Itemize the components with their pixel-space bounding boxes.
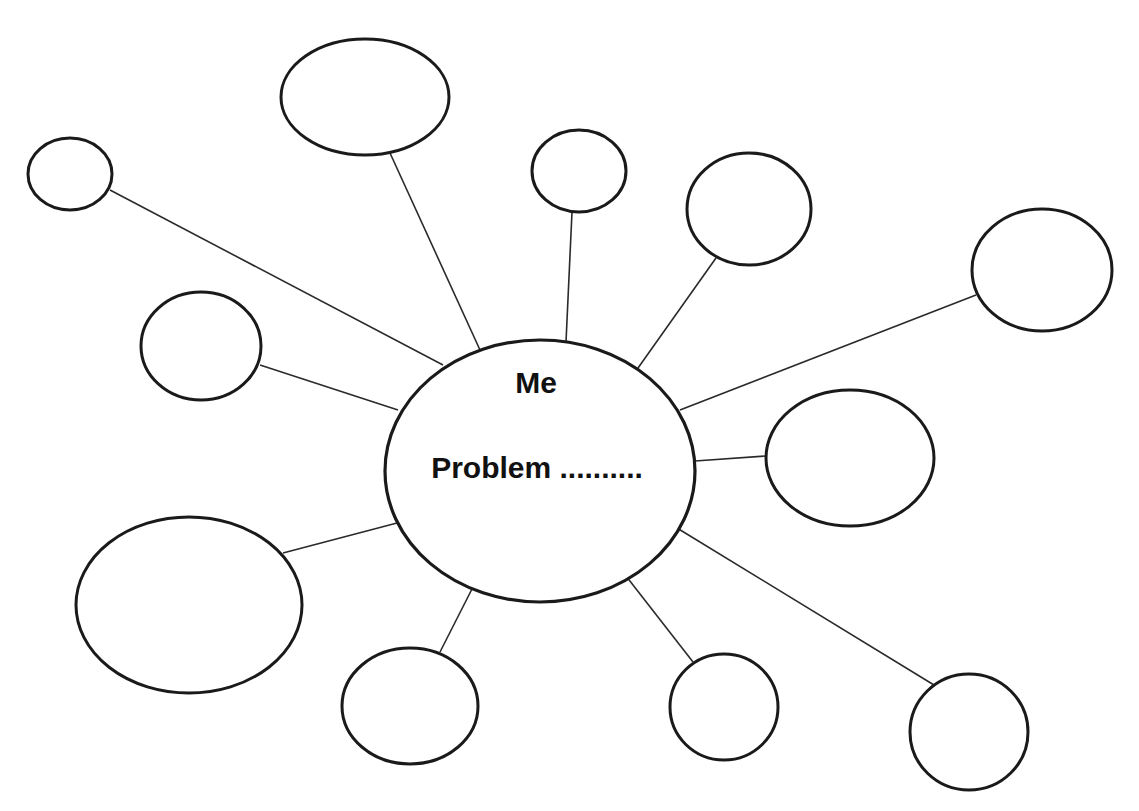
- node-bottom-left-large: [76, 517, 302, 693]
- node-top-left-small: [28, 138, 112, 210]
- connector-top-right: [638, 258, 716, 368]
- node-top-large: [281, 39, 449, 155]
- node-ellipse: [141, 292, 261, 400]
- node-ellipse: [910, 674, 1028, 790]
- connector-bottom-left-large: [283, 523, 397, 553]
- node-top-right: [687, 153, 811, 265]
- node-ellipse: [342, 648, 478, 764]
- node-ellipse: [281, 39, 449, 155]
- node-ellipse: [972, 209, 1112, 331]
- node-ellipse: [670, 654, 778, 760]
- mind-map-diagram: Me Problem ..........: [0, 0, 1139, 811]
- connector-left-middle: [260, 365, 398, 410]
- node-right-middle: [766, 390, 934, 526]
- node-ellipse: [76, 517, 302, 693]
- connector-top-large: [390, 153, 480, 350]
- node-far-right: [972, 209, 1112, 331]
- central-subtitle: Problem ..........: [431, 451, 643, 484]
- node-bottom-right: [910, 674, 1028, 790]
- connector-bottom-small: [440, 587, 473, 652]
- node-bottom-middle: [670, 654, 778, 760]
- node-ellipse: [532, 130, 626, 212]
- connector-bottom-middle: [626, 576, 693, 662]
- connector-right-middle: [695, 456, 766, 461]
- central-node: Me Problem ..........: [385, 340, 695, 602]
- node-bottom-small: [342, 648, 478, 764]
- node-ellipse: [687, 153, 811, 265]
- connector-top-small: [566, 212, 572, 342]
- node-top-small: [532, 130, 626, 212]
- node-left-middle: [141, 292, 261, 400]
- central-title: Me: [515, 366, 557, 399]
- node-ellipse: [766, 390, 934, 526]
- node-ellipse: [28, 138, 112, 210]
